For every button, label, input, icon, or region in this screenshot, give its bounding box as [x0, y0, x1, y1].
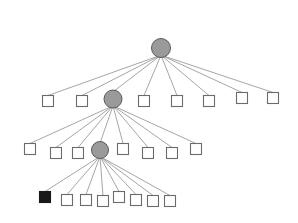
tree-node-square[interactable]: [51, 148, 62, 159]
tree-node-square[interactable]: [43, 96, 54, 107]
tree-edge: [113, 106, 196, 144]
node-layer: [25, 39, 279, 207]
tree-node-square[interactable]: [172, 96, 183, 107]
tree-edge: [48, 55, 161, 95]
tree-edge: [78, 106, 113, 148]
tree-node-square[interactable]: [204, 96, 215, 107]
tree-diagram-svg: [0, 0, 298, 223]
tree-node-square[interactable]: [191, 144, 202, 155]
tree-node-square[interactable]: [131, 195, 142, 206]
tree-diagram-canvas: [0, 0, 298, 223]
tree-node-square[interactable]: [237, 93, 248, 104]
tree-node-square[interactable]: [165, 196, 176, 207]
tree-edge: [100, 156, 103, 195]
tree-node-circle[interactable]: [92, 142, 109, 159]
tree-edge: [67, 156, 100, 194]
tree-node-square[interactable]: [77, 96, 88, 107]
tree-edge: [30, 106, 113, 144]
tree-edge: [100, 156, 136, 194]
tree-edge: [100, 156, 153, 195]
tree-node-circle[interactable]: [152, 39, 171, 58]
tree-edge: [161, 55, 209, 95]
tree-edge: [113, 55, 161, 92]
tree-node-square[interactable]: [268, 93, 279, 104]
tree-node-circle[interactable]: [104, 90, 122, 108]
tree-node-square[interactable]: [25, 144, 36, 155]
tree-edge: [45, 156, 100, 191]
tree-edge: [100, 106, 113, 143]
tree-node-square[interactable]: [73, 148, 84, 159]
tree-edge: [161, 55, 242, 92]
tree-edge: [161, 55, 273, 92]
tree-node-square[interactable]: [148, 196, 159, 207]
tree-node-square[interactable]: [143, 148, 154, 159]
edge-layer: [30, 55, 273, 195]
tree-node-square[interactable]: [81, 195, 92, 206]
tree-node-square[interactable]: [139, 96, 150, 107]
tree-edge: [82, 55, 161, 95]
tree-node-square[interactable]: [62, 195, 73, 206]
tree-node-square-filled[interactable]: [40, 192, 51, 203]
tree-edge: [86, 156, 100, 194]
tree-node-square[interactable]: [118, 144, 129, 155]
tree-edge: [56, 106, 113, 148]
tree-node-square[interactable]: [98, 196, 109, 207]
tree-node-square[interactable]: [167, 148, 178, 159]
tree-node-square[interactable]: [114, 192, 125, 203]
